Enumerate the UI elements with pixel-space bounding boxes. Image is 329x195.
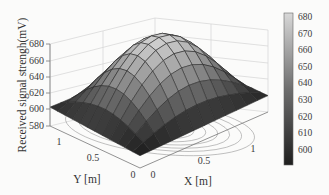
- cb-tick-660: 660: [298, 45, 313, 55]
- z-tick-620: 620: [29, 87, 44, 98]
- y-axis-label: Y [m]: [73, 173, 100, 185]
- surface-mesh: [50, 33, 268, 155]
- x-tick-0: 0: [151, 169, 156, 180]
- z-tick-660: 660: [29, 55, 44, 66]
- z-axis: 680 660 640 620 600 580 Received signal …: [16, 17, 50, 152]
- cb-tick-650: 650: [298, 62, 313, 72]
- cb-tick-610: 610: [298, 128, 313, 138]
- x-tick-0.5: 0.5: [198, 155, 211, 166]
- cb-tick-670: 670: [298, 29, 313, 39]
- z-axis-label: Received signal strengh(mV): [16, 17, 29, 152]
- y-tick-0.5: 0.5: [87, 152, 100, 163]
- surface-plot: 680 660 640 620 600 580 Received signal …: [0, 0, 329, 195]
- y-tick-0: 0: [131, 169, 136, 180]
- cb-tick-600: 600: [298, 145, 313, 155]
- colorbar: 680 670 660 650 640 630 620 610 600: [284, 12, 313, 165]
- x-tick-1: 1: [251, 143, 256, 154]
- x-axis-label: X [m]: [184, 175, 212, 187]
- cb-tick-620: 620: [298, 112, 313, 122]
- cb-tick-640: 640: [298, 78, 313, 88]
- cb-tick-680: 680: [298, 12, 313, 22]
- y-tick-1: 1: [57, 136, 62, 147]
- z-tick-600: 600: [29, 103, 44, 114]
- z-tick-580: 580: [29, 120, 44, 131]
- z-tick-640: 640: [29, 71, 44, 82]
- z-tick-680: 680: [29, 38, 44, 49]
- cb-tick-630: 630: [298, 95, 313, 105]
